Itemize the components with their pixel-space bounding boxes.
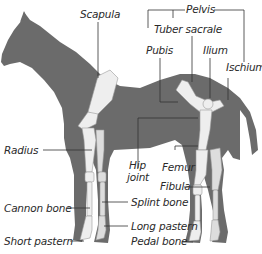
label-short-pastern: Short pastern	[4, 236, 73, 247]
label-femur: Femur	[162, 162, 195, 173]
carpus-bone-2	[98, 172, 106, 182]
label-hip-joint-line1: Hip	[129, 160, 146, 171]
label-pubis: Pubis	[146, 45, 173, 56]
label-hip-joint-line2: joint	[127, 172, 149, 183]
label-ilium: Ilium	[203, 45, 228, 56]
label-ischium: Ischium	[226, 62, 262, 73]
label-splint-bone: Splint bone	[131, 197, 188, 208]
label-radius: Radius	[4, 145, 38, 156]
label-long-pastern: Long pastern	[131, 221, 198, 232]
label-fibula: Fibula	[160, 181, 190, 192]
label-scapula: Scapula	[80, 9, 120, 20]
carpus-bone	[85, 172, 94, 182]
horse-skeleton-diagram	[0, 0, 262, 254]
hind-cannon-bone-2	[213, 190, 218, 220]
label-pelvis: Pelvis	[186, 4, 215, 15]
hip-joint-bone	[203, 99, 213, 109]
hind-cannon-bone	[195, 195, 200, 221]
cannon-bone-front	[87, 182, 92, 216]
label-pedal-bone: Pedal bone	[131, 236, 187, 247]
hind-pastern-2	[210, 220, 220, 241]
cannon-bone-back	[100, 182, 105, 216]
label-cannon-bone: Cannon bone	[4, 203, 72, 214]
label-tuber-sacrale: Tuber sacrale	[154, 24, 222, 35]
tarsus-bone	[193, 185, 202, 195]
